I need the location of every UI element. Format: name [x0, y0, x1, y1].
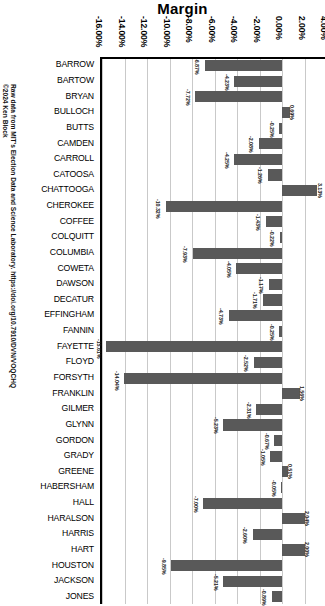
bar[interactable] — [256, 404, 282, 415]
y-tick-label: GREENE — [58, 467, 94, 476]
y-tick-label: HARRIS — [62, 529, 94, 538]
bar[interactable] — [269, 279, 282, 290]
plot-area: -6.87%-4.23%-7.72%0.69%-0.25%-2.08%-4.25… — [100, 57, 325, 604]
bar[interactable] — [282, 185, 317, 196]
bar-value-label: 2.04% — [304, 511, 310, 526]
y-tick-label: FORSYTH — [54, 373, 94, 382]
bar[interactable] — [272, 591, 282, 602]
y-tick-label: JACKSON — [54, 576, 94, 585]
bar-value-label: -0.22% — [269, 230, 275, 246]
y-tick-label: CHATTOOGA — [41, 185, 94, 194]
bar-value-label: -4.05% — [226, 261, 232, 277]
x-tick-label: 4.00% — [319, 16, 325, 40]
bar-value-label: -4.25% — [224, 152, 230, 168]
bar[interactable] — [205, 60, 282, 71]
bar-row: -0.67% — [102, 434, 325, 450]
x-tick-label: -14.00% — [117, 16, 127, 47]
bar-row: -4.73% — [102, 309, 325, 325]
bar-row: -5.21% — [102, 575, 325, 591]
bar-value-label: -4.23% — [224, 74, 230, 90]
bar-value-label: -1.17% — [258, 277, 264, 293]
y-tick-label: GORDON — [56, 436, 94, 445]
y-tick-label: BULLOCH — [54, 107, 94, 116]
x-tick-label: 2.00% — [297, 16, 307, 40]
margin-chart: Margin Raw data from MIT's Election Data… — [0, 0, 325, 606]
y-tick-label: CHEROKEE — [46, 201, 94, 210]
bar[interactable] — [124, 373, 282, 384]
bar[interactable] — [280, 232, 282, 243]
bar[interactable] — [106, 341, 282, 352]
bar-row: -0.25% — [102, 122, 325, 138]
bar-value-label: -0.25% — [269, 324, 275, 340]
x-axis-tick-labels: -16.00%-14.00%-12.00%-10.00%-8.00%-6.00%… — [0, 16, 325, 56]
y-tick-label: EFFINGHAM — [44, 310, 94, 319]
bar-value-label: -5.21% — [213, 574, 219, 590]
bar-row: -1.17% — [102, 278, 325, 294]
bar-row: -15.61% — [102, 340, 325, 356]
bar-value-label: -2.31% — [246, 402, 252, 418]
chart-title: Margin — [0, 0, 325, 17]
bar-value-label: -2.60% — [242, 527, 248, 543]
bar-value-label: -1.71% — [252, 292, 258, 308]
bar-value-label: 2.00% — [304, 542, 310, 557]
y-tick-label: COLUMBIA — [50, 248, 94, 257]
bar[interactable] — [274, 435, 282, 446]
bar[interactable] — [229, 310, 282, 321]
bar-value-label: -0.89% — [261, 589, 267, 605]
y-tick-label: BUTTS — [66, 123, 94, 132]
bar[interactable] — [279, 326, 282, 337]
y-tick-label: FANNIN — [63, 326, 94, 335]
bar[interactable] — [281, 482, 282, 493]
bar[interactable] — [266, 216, 282, 227]
bar-row: 0.69% — [102, 106, 325, 122]
bar[interactable] — [223, 576, 282, 587]
bar[interactable] — [166, 201, 282, 212]
bar[interactable] — [259, 138, 282, 149]
x-tick-label: -12.00% — [139, 16, 149, 47]
bar-value-label: -0.67% — [264, 433, 270, 449]
y-tick-label: JONES — [66, 592, 94, 601]
bar[interactable] — [203, 498, 282, 509]
bar[interactable] — [282, 388, 300, 399]
bar-value-label: -1.26% — [257, 167, 263, 183]
bar-value-label: -7.93% — [182, 246, 188, 262]
bar[interactable] — [195, 91, 282, 102]
bar[interactable] — [171, 560, 282, 571]
y-tick-label: BRYAN — [66, 92, 94, 101]
y-tick-label: COWETA — [57, 264, 94, 273]
y-tick-label: CAMDEN — [57, 139, 94, 148]
bar-row: 0.51% — [102, 465, 325, 481]
bar-row: 2.00% — [102, 543, 325, 559]
y-tick-label: CATOOSA — [53, 170, 94, 179]
bar-row: -1.26% — [102, 168, 325, 184]
bar-row: -4.23% — [102, 75, 325, 91]
bar-row: -10.32% — [102, 200, 325, 216]
bar[interactable] — [253, 529, 282, 540]
bar-value-label: 1.56% — [299, 386, 305, 401]
bar[interactable] — [268, 169, 282, 180]
bar[interactable] — [234, 154, 282, 165]
bar-row: -2.52% — [102, 356, 325, 372]
y-tick-label: GILMER — [62, 404, 94, 413]
bar[interactable] — [254, 357, 282, 368]
bar[interactable] — [282, 544, 305, 555]
bar-value-label: 0.69% — [289, 105, 295, 120]
bar[interactable] — [193, 248, 282, 259]
bar[interactable] — [223, 419, 282, 430]
bar-row: -1.71% — [102, 293, 325, 309]
y-tick-label: COFFEE — [60, 217, 94, 226]
bar[interactable] — [282, 513, 305, 524]
y-tick-label: HABERSHAM — [40, 482, 94, 491]
y-tick-label: DECATUR — [54, 295, 94, 304]
bar-value-label: -6.87% — [194, 58, 200, 74]
bar-row: -7.93% — [102, 247, 325, 263]
bar[interactable] — [234, 76, 282, 87]
bar-row: 3.13% — [102, 184, 325, 200]
x-tick-label: -16.00% — [94, 16, 104, 47]
y-tick-label: DAWSON — [56, 279, 94, 288]
bar-row: -0.22% — [102, 231, 325, 247]
bar[interactable] — [263, 294, 282, 305]
bar[interactable] — [270, 451, 282, 462]
bar[interactable] — [236, 263, 282, 274]
bar[interactable] — [279, 123, 282, 134]
